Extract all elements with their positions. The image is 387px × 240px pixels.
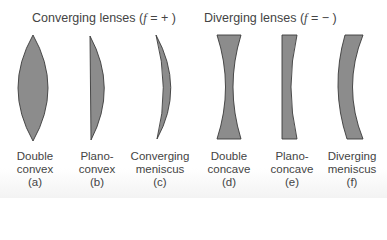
plano-convex-lens-icon bbox=[90, 36, 104, 140]
label-tag: (c) bbox=[125, 176, 195, 189]
label-line1: Plano- bbox=[62, 150, 132, 163]
label-tag: (d) bbox=[194, 176, 264, 189]
label-tag: (b) bbox=[62, 176, 132, 189]
label-line1: Converging bbox=[125, 150, 195, 163]
lens-label-b: Plano- convex (b) bbox=[62, 150, 132, 189]
label-line2: meniscus bbox=[125, 163, 195, 176]
label-line2: convex bbox=[0, 163, 70, 176]
lens-label-a: Double convex (a) bbox=[0, 150, 70, 189]
label-line1: Double bbox=[0, 150, 70, 163]
lens-label-f: Diverging meniscus (f) bbox=[317, 150, 387, 189]
lens-label-d: Double concave (d) bbox=[194, 150, 264, 189]
lens-label-c: Converging meniscus (c) bbox=[125, 150, 195, 189]
label-line2: meniscus bbox=[317, 163, 387, 176]
diverging-meniscus-lens-icon bbox=[338, 35, 363, 139]
label-line1: Diverging bbox=[317, 150, 387, 163]
label-tag: (f) bbox=[317, 176, 387, 189]
plano-concave-lens-icon bbox=[282, 35, 297, 139]
converging-meniscus-lens-icon bbox=[156, 35, 171, 139]
label-line1: Double bbox=[194, 150, 264, 163]
label-line2: concave bbox=[194, 163, 264, 176]
label-line2: convex bbox=[62, 163, 132, 176]
double-concave-lens-icon bbox=[217, 35, 241, 139]
label-tag: (a) bbox=[0, 176, 70, 189]
double-convex-lens-icon bbox=[18, 35, 48, 141]
